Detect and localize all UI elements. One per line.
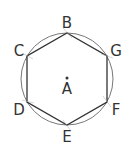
center-label: A (62, 80, 73, 98)
vertex-label-d: D (13, 101, 25, 119)
vertex-label-c: C (14, 42, 24, 60)
vertex-label-e: E (62, 128, 71, 146)
hexagon-diagram: A B G F E D C (0, 0, 131, 154)
vertex-label-g: G (110, 42, 122, 60)
vertex-label-f: F (112, 101, 121, 119)
vertex-label-b: B (62, 14, 72, 32)
